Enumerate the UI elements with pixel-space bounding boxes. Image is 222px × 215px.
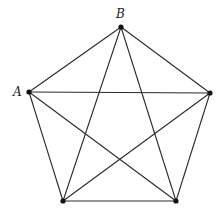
vertex-BR <box>173 198 178 203</box>
edge-BR-A <box>29 92 176 201</box>
edge-R-BL <box>63 93 210 201</box>
edge-B-A <box>29 27 121 92</box>
edge-B-BR <box>121 27 176 201</box>
vertex-R <box>207 90 212 95</box>
k5-graph-diagram: BA <box>0 0 222 215</box>
vertex-A <box>26 89 31 94</box>
edge-B-BL <box>63 27 121 201</box>
vertex-label-B: B <box>115 7 125 21</box>
vertex-labels: BA <box>12 7 125 99</box>
vertex-B <box>118 24 123 29</box>
edge-R-A <box>29 92 210 93</box>
edge-BL-A <box>29 92 63 201</box>
graph-edges <box>29 27 210 201</box>
vertex-BL <box>60 198 65 203</box>
edge-B-R <box>121 27 210 93</box>
vertex-label-A: A <box>12 85 22 99</box>
edge-R-BR <box>176 93 210 201</box>
graph-vertices <box>26 24 212 203</box>
